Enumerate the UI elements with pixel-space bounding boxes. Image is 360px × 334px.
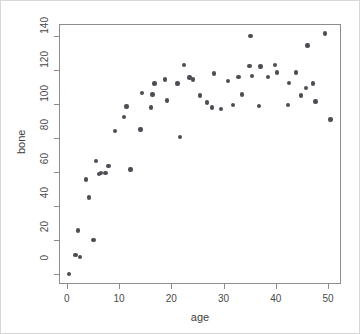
y-axis-tick xyxy=(54,274,59,275)
data-point xyxy=(287,81,291,85)
y-axis-tick xyxy=(54,104,59,105)
x-axis-tick xyxy=(328,284,329,289)
data-point xyxy=(273,63,277,67)
data-point xyxy=(178,135,182,139)
data-point xyxy=(152,81,156,85)
data-point xyxy=(219,107,223,111)
data-point xyxy=(191,77,195,81)
data-point xyxy=(94,159,98,163)
data-point xyxy=(78,255,82,259)
x-axis-tick-label: 30 xyxy=(218,293,229,304)
data-point xyxy=(226,79,230,83)
scatter-plot-figure: 01020304050020406080100120140 age bone xyxy=(0,0,360,334)
y-axis-title: bone xyxy=(15,130,27,154)
y-axis-tick xyxy=(54,70,59,71)
data-point xyxy=(231,103,235,107)
data-point xyxy=(150,92,154,96)
data-point xyxy=(304,86,308,90)
x-axis-tick-label: 40 xyxy=(270,293,281,304)
data-point xyxy=(294,70,298,74)
y-axis-tick xyxy=(54,172,59,173)
data-point xyxy=(128,167,132,171)
data-point xyxy=(328,117,332,121)
data-point xyxy=(182,63,186,67)
x-axis-title: age xyxy=(191,311,209,323)
data-point xyxy=(76,228,80,232)
data-point xyxy=(250,74,254,78)
x-axis-tick-label: 10 xyxy=(113,293,124,304)
data-point xyxy=(247,64,251,68)
x-axis-tick xyxy=(276,284,277,289)
data-point xyxy=(106,164,110,168)
data-point xyxy=(305,43,309,47)
y-axis-tick xyxy=(54,36,59,37)
data-point xyxy=(87,195,91,199)
data-point xyxy=(165,98,169,102)
x-axis-tick xyxy=(67,284,68,289)
data-point xyxy=(124,104,128,108)
data-point xyxy=(138,127,142,131)
data-point xyxy=(236,75,240,79)
data-point xyxy=(311,81,315,85)
plot-area xyxy=(59,24,341,284)
data-point xyxy=(67,272,71,276)
y-axis-tick xyxy=(54,240,59,241)
data-point xyxy=(84,177,88,181)
x-axis-tick-label: 0 xyxy=(64,293,70,304)
data-points-layer xyxy=(60,25,340,283)
data-point xyxy=(299,93,303,97)
data-point xyxy=(122,115,126,119)
data-point xyxy=(91,238,95,242)
data-point xyxy=(275,70,279,74)
data-point xyxy=(205,100,209,104)
data-point xyxy=(149,105,153,109)
data-point xyxy=(258,64,262,68)
y-axis-tick xyxy=(54,206,59,207)
x-axis-tick-label: 50 xyxy=(322,293,333,304)
y-axis-tick-label: 140 xyxy=(39,17,50,66)
data-point xyxy=(240,92,244,96)
data-point xyxy=(323,31,327,35)
x-axis-tick-label: 20 xyxy=(166,293,177,304)
data-point xyxy=(140,91,144,95)
data-point xyxy=(248,34,252,38)
data-point xyxy=(113,129,117,133)
data-point xyxy=(210,105,214,109)
data-point xyxy=(313,99,317,103)
data-point xyxy=(257,104,261,108)
data-point xyxy=(266,75,270,79)
data-point xyxy=(175,81,179,85)
data-point xyxy=(212,71,216,75)
data-point xyxy=(286,103,290,107)
data-point xyxy=(163,77,167,81)
x-axis-tick xyxy=(224,284,225,289)
y-axis-tick xyxy=(54,138,59,139)
x-axis-tick xyxy=(171,284,172,289)
data-point xyxy=(198,93,202,97)
data-point xyxy=(103,171,107,175)
x-axis-tick xyxy=(119,284,120,289)
